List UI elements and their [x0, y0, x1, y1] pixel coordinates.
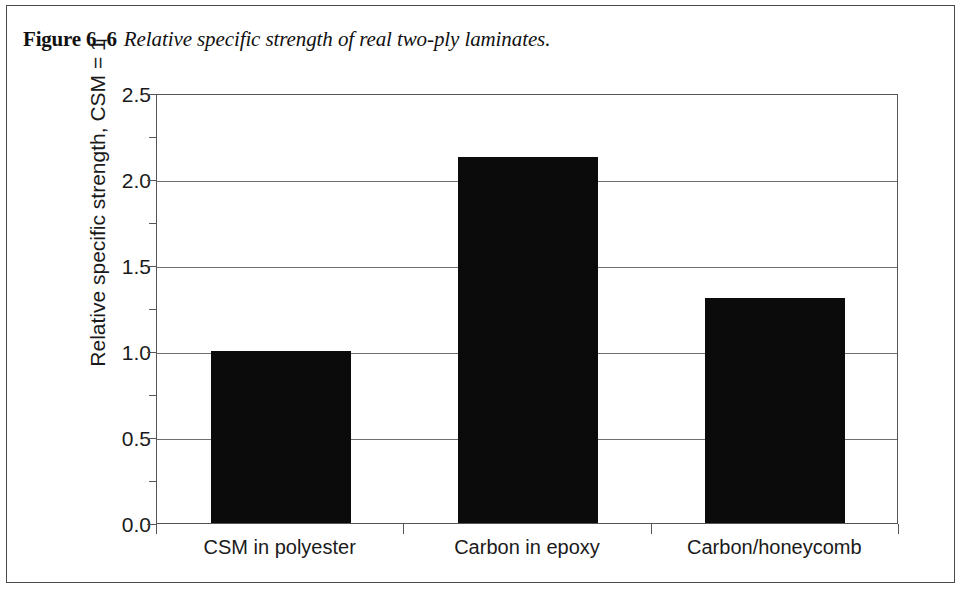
x-boundary-tick-2 [651, 524, 652, 534]
bar-1 [211, 351, 351, 523]
y-minor-tick-1.75 [149, 223, 156, 224]
y-tick-label-1.5: 1.5 [99, 256, 151, 277]
y-major-tick-0.0 [147, 524, 156, 525]
y-major-tick-0.5 [147, 438, 156, 439]
bar-2 [458, 157, 598, 523]
y-major-tick-1.0 [147, 352, 156, 353]
plot-area [156, 94, 898, 524]
y-minor-tick-1.25 [149, 309, 156, 310]
figure-frame: Figure 6–6Relative specific strength of … [6, 5, 955, 583]
y-major-tick-2.0 [147, 180, 156, 181]
y-minor-tick-0.75 [149, 395, 156, 396]
x-axis-tick-labels: CSM in polyesterCarbon in epoxyCarbon/ho… [156, 534, 898, 568]
y-major-tick-1.5 [147, 266, 156, 267]
x-tick-label-2: Carbon in epoxy [403, 534, 650, 560]
x-boundary-tick-1 [403, 524, 404, 534]
x-boundary-tick-0 [156, 524, 157, 534]
x-tick-label-1: CSM in polyester [156, 534, 403, 560]
y-major-tick-2.5 [147, 94, 156, 95]
bar-3 [705, 298, 845, 523]
y-tick-label-2.0: 2.0 [99, 170, 151, 191]
y-tick-label-2.5: 2.5 [99, 84, 151, 105]
y-tick-label-1.0: 1.0 [99, 342, 151, 363]
y-minor-tick-2.25 [149, 137, 156, 138]
bar-chart: Relative specific strength, CSM = 1 0.00… [7, 6, 956, 584]
y-axis-tick-labels: 0.00.51.01.52.02.5 [95, 94, 151, 524]
y-minor-tick-0.25 [149, 481, 156, 482]
x-tick-label-3: Carbon/honeycomb [651, 534, 898, 560]
y-tick-label-0.5: 0.5 [99, 428, 151, 449]
y-tick-label-0.0: 0.0 [99, 514, 151, 535]
x-boundary-tick-3 [898, 524, 899, 534]
